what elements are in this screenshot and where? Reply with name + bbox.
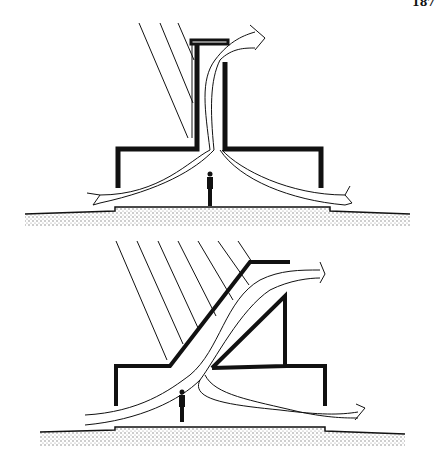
bottom-panel: [40, 241, 405, 446]
airflow-arrows: [87, 25, 352, 205]
solar-chimney-diagram: [0, 0, 437, 458]
ground: [40, 427, 405, 446]
sun-rays: [116, 241, 252, 360]
person: [207, 172, 213, 207]
top-panel: [25, 23, 410, 226]
sun-rays: [139, 23, 194, 138]
inclined-duct: [116, 262, 325, 406]
person: [179, 390, 185, 423]
ground: [25, 207, 410, 226]
